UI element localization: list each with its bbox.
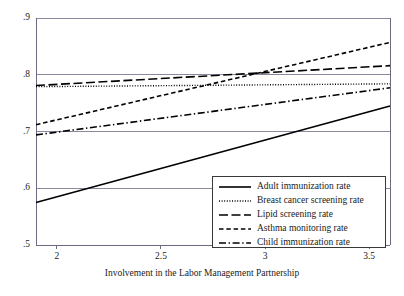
y-tick-label: .5 [8,240,30,250]
legend-item-label: Lipid screening rate [257,210,333,220]
x-tick-label: 3 [245,252,285,262]
y-tick-label: .8 [8,70,30,80]
legend-item-label: Breast cancer screening rate [257,196,364,206]
y-tick-label: .7 [8,127,30,137]
legend-line-swatch [218,223,252,235]
legend-item-label: Adult immunization rate [257,182,350,192]
series-line-4 [36,88,390,135]
x-tick-label: 2 [37,252,77,262]
legend-line-swatch [218,181,252,193]
legend-item: Asthma monitoring rate [213,222,385,236]
legend-item-label: Child immunization rate [257,238,350,248]
legend-line-swatch [218,237,252,249]
legend-line-swatch [218,209,252,221]
legend-item: Adult immunization rate [213,180,385,194]
legend-item-label: Asthma monitoring rate [257,224,348,234]
chart-container: .5.6.7.8.9 22.533.5 Involvement in the L… [0,0,404,296]
series-line-1 [36,84,390,87]
y-tick-label: .9 [8,13,30,23]
y-tick-label: .6 [8,183,30,193]
series-line-2 [36,66,390,86]
x-tick-label: 2.5 [141,252,181,262]
chart-legend: Adult immunization rateBreast cancer scr… [212,176,386,248]
legend-item: Lipid screening rate [213,208,385,222]
series-line-3 [36,42,390,124]
x-axis-title: Involvement in the Labor Management Part… [0,268,404,278]
legend-item: Child immunization rate [213,236,385,250]
x-tick-label: 3.5 [349,252,389,262]
legend-item: Breast cancer screening rate [213,194,385,208]
legend-line-swatch [218,195,252,207]
